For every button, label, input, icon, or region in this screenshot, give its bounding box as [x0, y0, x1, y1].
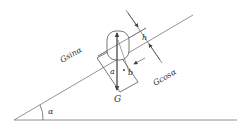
- weight-label: G: [114, 94, 121, 104]
- b-dimension-arrow: [134, 58, 145, 64]
- angle-label: α: [48, 107, 54, 116]
- b-label: b: [128, 68, 133, 77]
- cylinder-shape: [107, 31, 129, 60]
- diagram-svg: Gsinα Gcosα G α a b h: [0, 0, 243, 131]
- a-label: a: [110, 67, 115, 76]
- h-label: h: [142, 33, 147, 42]
- center-of-mass-dot: [123, 69, 125, 71]
- angle-arc: [40, 105, 43, 120]
- gcos-label: Gcosα: [152, 67, 179, 88]
- gsin-label: Gsinα: [59, 45, 84, 65]
- incline-force-diagram: Gsinα Gcosα G α a b h: [0, 0, 243, 131]
